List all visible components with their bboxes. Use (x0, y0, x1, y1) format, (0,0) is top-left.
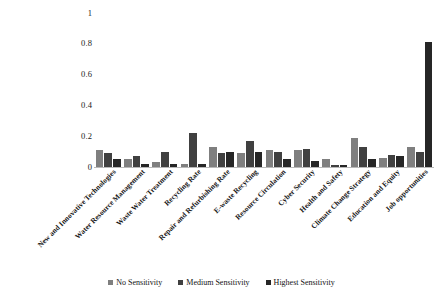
bar[interactable] (407, 147, 415, 167)
x-axis-label: Resource Circulation (234, 168, 288, 222)
y-axis-tick: 0.8 (60, 39, 92, 48)
bar-group (122, 13, 150, 167)
bar-group (349, 13, 377, 167)
bar[interactable] (416, 152, 424, 167)
y-axis-tick: 1 (60, 9, 92, 18)
bar[interactable] (113, 159, 121, 167)
y-axis-tick: 0.2 (60, 132, 92, 141)
y-axis-tick: 0 (60, 163, 92, 172)
bar[interactable] (294, 150, 302, 167)
chart-legend: No SensitivityMedium SensitivityHighest … (0, 278, 443, 287)
bar-group (94, 13, 122, 167)
bar[interactable] (322, 159, 330, 167)
bar[interactable] (388, 155, 396, 167)
bar[interactable] (246, 141, 254, 167)
legend-label: Medium Sensitivity (186, 278, 249, 287)
bar[interactable] (161, 152, 169, 167)
bar-group (151, 13, 179, 167)
bar[interactable] (237, 153, 245, 167)
legend-swatch-icon (108, 280, 113, 285)
bar[interactable] (303, 149, 311, 167)
bar[interactable] (379, 158, 387, 167)
bar[interactable] (283, 159, 291, 167)
bar[interactable] (255, 152, 263, 167)
y-axis-tick: 0.6 (60, 70, 92, 79)
bar-group (406, 13, 434, 167)
bar[interactable] (133, 156, 141, 167)
bar[interactable] (274, 152, 282, 167)
bar-groups (94, 13, 434, 167)
bar[interactable] (104, 153, 112, 167)
bar[interactable] (209, 147, 217, 167)
bar-group (207, 13, 235, 167)
legend-swatch-icon (178, 280, 183, 285)
bar[interactable] (218, 153, 226, 167)
x-axis-label: Education and Equity (346, 168, 401, 223)
bar[interactable] (351, 138, 359, 167)
legend-item[interactable]: Highest Sensitivity (266, 278, 335, 287)
legend-swatch-icon (266, 280, 271, 285)
bar-chart: 00.20.40.60.81 New and Innovative Techno… (0, 0, 443, 304)
bar[interactable] (189, 133, 197, 167)
bar[interactable] (226, 152, 234, 167)
y-axis: 00.20.40.60.81 (60, 0, 92, 180)
y-axis-tick: 0.4 (60, 101, 92, 110)
bar-group (236, 13, 264, 167)
bar[interactable] (96, 150, 104, 167)
bar[interactable] (368, 159, 376, 167)
bar[interactable] (359, 147, 367, 167)
bar[interactable] (124, 159, 132, 167)
bar[interactable] (425, 42, 433, 167)
bar[interactable] (266, 150, 274, 167)
bar[interactable] (396, 156, 404, 167)
x-axis-labels: New and Innovative TechnologiesWater Res… (94, 168, 434, 268)
bar-group (264, 13, 292, 167)
legend-label: Highest Sensitivity (274, 278, 335, 287)
bar-group (179, 13, 207, 167)
plot-area (94, 13, 434, 167)
legend-item[interactable]: Medium Sensitivity (178, 278, 249, 287)
legend-label: No Sensitivity (116, 278, 162, 287)
legend-item[interactable]: No Sensitivity (108, 278, 162, 287)
bar-group (377, 13, 405, 167)
bar-group (321, 13, 349, 167)
bar-group (292, 13, 320, 167)
